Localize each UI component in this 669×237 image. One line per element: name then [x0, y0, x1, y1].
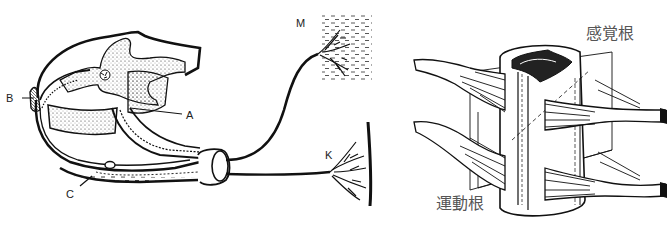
label-a-grey-matter: A	[186, 110, 193, 121]
spinal-roots-3d-diagram	[0, 0, 669, 237]
label-k-muscle: K	[325, 150, 332, 161]
label-motor-root: 運動根	[436, 196, 484, 212]
figure: B A C M K 感覚根 運動根	[0, 0, 669, 237]
label-sensory-root: 感覚根	[586, 26, 634, 42]
label-c-nerve: C	[66, 189, 74, 200]
label-m-skin-receptor: M	[296, 18, 305, 29]
label-b-dorsal-root-ganglion: B	[6, 93, 13, 104]
